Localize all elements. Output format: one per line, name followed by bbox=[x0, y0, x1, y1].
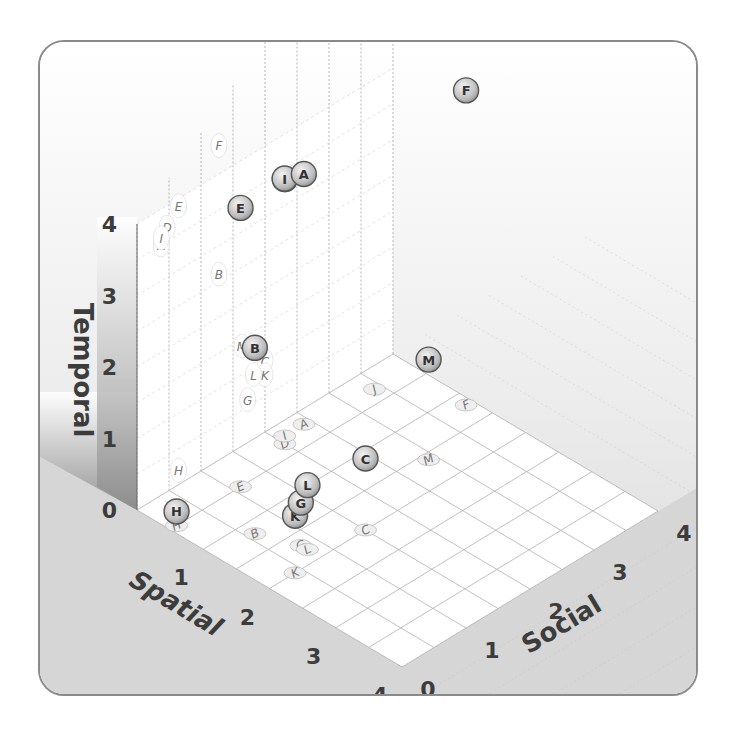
data-point-c: C bbox=[353, 446, 378, 471]
svg-text:B: B bbox=[250, 341, 260, 356]
temporal-tick: 4 bbox=[102, 212, 117, 237]
temporal-tick: 0 bbox=[102, 498, 117, 523]
svg-text:F: F bbox=[215, 139, 223, 153]
temporal-tick: 3 bbox=[102, 284, 117, 309]
temporal-axis-label: Temporal bbox=[68, 303, 98, 438]
svg-text:K: K bbox=[261, 369, 270, 383]
svg-text:H: H bbox=[174, 464, 183, 478]
spatial-tick: 2 bbox=[240, 605, 255, 630]
temporal-tick: 2 bbox=[102, 355, 117, 380]
svg-text:C: C bbox=[361, 452, 371, 467]
svg-text:I: I bbox=[160, 232, 164, 246]
svg-text:E: E bbox=[236, 201, 245, 216]
svg-text:A: A bbox=[299, 167, 309, 182]
social-tick: 4 bbox=[676, 521, 691, 546]
svg-text:L: L bbox=[303, 478, 311, 493]
data-point-f: F bbox=[454, 78, 479, 103]
temporal-tick: 1 bbox=[102, 427, 117, 452]
data-point-l: L bbox=[295, 473, 320, 498]
svg-text:B: B bbox=[215, 268, 223, 282]
data-point-h: H bbox=[164, 499, 189, 524]
data-point-a: A bbox=[291, 162, 316, 187]
social-tick: 1 bbox=[484, 638, 499, 663]
svg-text:L: L bbox=[250, 369, 257, 383]
svg-text:E: E bbox=[175, 200, 183, 214]
svg-text:M: M bbox=[422, 353, 435, 368]
scatter-3d-chart: 01234123401234TemporalSpatialSocialABCDE… bbox=[40, 42, 698, 696]
svg-text:I: I bbox=[282, 172, 287, 187]
svg-text:H: H bbox=[171, 504, 182, 519]
spatial-tick: 3 bbox=[306, 644, 321, 669]
svg-text:G: G bbox=[243, 394, 252, 408]
chart-frame: 01234123401234TemporalSpatialSocialABCDE… bbox=[38, 40, 698, 696]
data-point-e: E bbox=[228, 195, 253, 220]
data-point-m: M bbox=[416, 347, 441, 372]
spatial-tick: 4 bbox=[372, 683, 387, 696]
svg-text:F: F bbox=[462, 83, 471, 98]
social-tick: 3 bbox=[612, 560, 627, 585]
social-tick: 0 bbox=[420, 677, 435, 696]
data-point-b: B bbox=[242, 335, 267, 360]
